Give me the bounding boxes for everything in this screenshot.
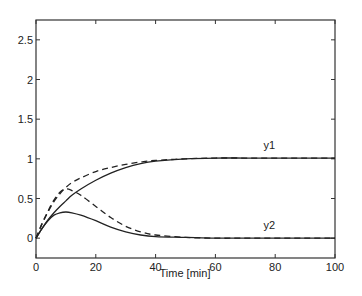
x-tick-label: 0 bbox=[33, 261, 39, 273]
x-tick-label: 60 bbox=[209, 261, 221, 273]
y-tick-label: 1.5 bbox=[18, 113, 33, 125]
y-tick-label: 2 bbox=[27, 74, 33, 86]
y-tick-label: 0 bbox=[27, 232, 33, 244]
y-tick-label: 2.5 bbox=[18, 34, 33, 46]
x-tick-label: 20 bbox=[90, 261, 102, 273]
plot-area bbox=[36, 20, 335, 258]
y-tick-label: 1 bbox=[27, 153, 33, 165]
line-chart: 00.511.522.5 020406080100 Time [min] y1y… bbox=[0, 0, 362, 296]
x-tick-label: 100 bbox=[326, 261, 344, 273]
series-annotation: y1 bbox=[263, 139, 275, 151]
x-tick-label: 80 bbox=[269, 261, 281, 273]
series-annotation: y2 bbox=[263, 219, 275, 231]
x-axis-label: Time [min] bbox=[160, 267, 211, 279]
y-tick-label: 0.5 bbox=[18, 193, 33, 205]
